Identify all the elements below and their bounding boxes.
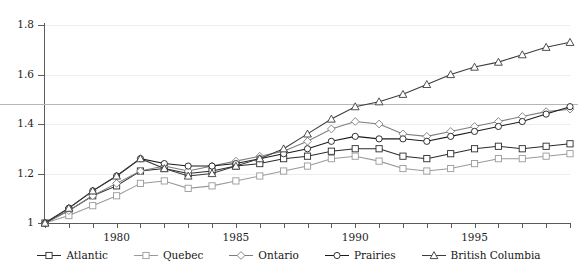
series-quebec [42,151,573,226]
chart-figure: 11.21.41.61.8 1980198519901995 AtlanticQ… [0,0,578,272]
legend-item-prairies[interactable]: Prairies [325,249,396,261]
series-lines [0,0,578,272]
series-british-columbia [41,38,574,226]
legend-label: Quebec [163,249,203,261]
legend-marker-square-icon [134,250,158,261]
legend-item-ontario[interactable]: Ontario [229,249,299,261]
legend-label: British Columbia [451,249,541,261]
legend-label: Atlantic [66,249,107,261]
legend-label: Prairies [354,249,396,261]
legend-item-british-columbia[interactable]: British Columbia [422,249,541,261]
legend-marker-diamond-icon [229,250,253,261]
legend-marker-circle-icon [325,250,349,261]
legend-label: Ontario [258,249,299,261]
chart-legend: AtlanticQuebecOntarioPrairiesBritish Col… [0,245,578,265]
series-atlantic [42,141,573,226]
legend-item-atlantic[interactable]: Atlantic [37,249,107,261]
legend-marker-square-icon [37,250,61,261]
legend-marker-triangle-icon [422,250,446,261]
legend-item-quebec[interactable]: Quebec [134,249,203,261]
